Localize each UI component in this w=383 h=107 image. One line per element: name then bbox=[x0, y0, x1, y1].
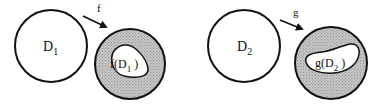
map-f-arrow bbox=[83, 16, 106, 27]
map-g-arrow bbox=[280, 20, 302, 29]
left-mapping: D1 f f(D1 ) bbox=[15, 2, 165, 99]
map-f-label: f bbox=[97, 2, 101, 14]
right-mapping: D2 g g(D2 ) bbox=[208, 6, 367, 99]
map-g-label: g bbox=[293, 6, 299, 18]
mapping-diagram: D1 f f(D1 ) D2 g g(D2 ) bbox=[0, 0, 383, 107]
